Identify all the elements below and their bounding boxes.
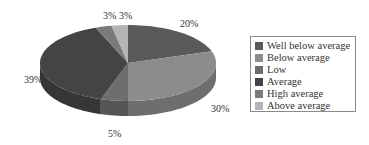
- legend-item-average: Average: [255, 76, 355, 88]
- legend-label: Well below average: [267, 40, 350, 52]
- legend-swatch: [255, 102, 263, 110]
- legend-item-below-average: Below average: [255, 52, 355, 64]
- data-label: 3%: [103, 10, 116, 21]
- pie-chart: [0, 0, 245, 145]
- legend-item-well-below-average: Well below average: [255, 40, 355, 52]
- legend-item-low: Low: [255, 64, 355, 76]
- legend-label: High average: [267, 88, 323, 100]
- legend-swatch: [255, 90, 263, 98]
- legend: Well below average Below average Low Ave…: [250, 36, 356, 112]
- data-label: 5%: [108, 128, 121, 139]
- legend-label: Average: [267, 76, 302, 88]
- legend-label: Low: [267, 64, 286, 76]
- legend-label: Above average: [267, 100, 330, 112]
- data-label: 39%: [24, 74, 42, 85]
- legend-swatch: [255, 66, 263, 74]
- legend-swatch: [255, 42, 263, 50]
- legend-swatch: [255, 54, 263, 62]
- data-label: 20%: [180, 18, 198, 29]
- legend-label: Below average: [267, 52, 330, 64]
- legend-item-high-average: High average: [255, 88, 355, 100]
- legend-item-above-average: Above average: [255, 100, 355, 112]
- legend-swatch: [255, 78, 263, 86]
- data-label: 3%: [119, 10, 132, 21]
- pie-side-low: [101, 99, 128, 116]
- data-label: 30%: [211, 103, 229, 114]
